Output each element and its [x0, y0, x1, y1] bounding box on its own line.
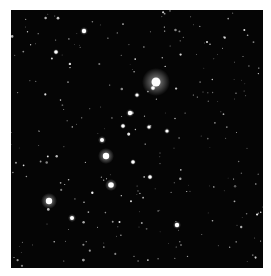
star-field-svg [11, 10, 263, 268]
bright-stars [41, 27, 181, 229]
faint-stars [11, 10, 263, 267]
star-field-image [11, 10, 263, 268]
